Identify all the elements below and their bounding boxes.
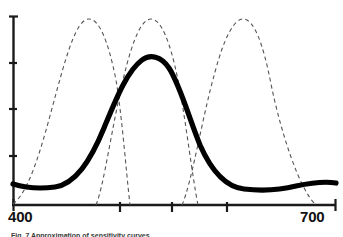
x-axis-min-label: 400: [8, 209, 32, 224]
figure-caption: Fig. 7 Approximation of sensitivity curv…: [11, 231, 331, 237]
long-wavelength-curve: [182, 19, 315, 205]
combined-luminosity-curve: [13, 57, 336, 190]
x-axis-max-label: 700: [300, 209, 324, 224]
dashed-curves-group: [13, 19, 315, 205]
figure-container: 400 700 Fig. 7 Approximation of sensitiv…: [0, 0, 343, 237]
sensitivity-curves-plot: [0, 0, 343, 237]
axes-group: [12, 16, 336, 206]
